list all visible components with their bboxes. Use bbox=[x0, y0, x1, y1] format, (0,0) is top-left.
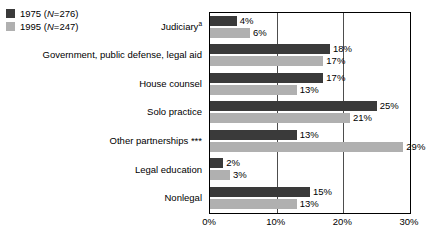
x-tick-label: 20% bbox=[333, 216, 352, 227]
bar-value-label: 15% bbox=[310, 187, 332, 197]
chart-figure: 1975 (N=276) 1995 (N=247) JudiciaryaGove… bbox=[0, 0, 434, 248]
category-label: House counsel bbox=[139, 78, 202, 89]
category-axis: JudiciaryaGovernment, public defense, le… bbox=[0, 12, 206, 212]
bar-1975 bbox=[210, 187, 310, 197]
plot-area: 4%6%18%17%17%13%25%21%13%29%2%3%15%13% bbox=[209, 12, 411, 214]
bar-value-label: 17% bbox=[323, 56, 345, 66]
category-label: Government, public defense, legal aid bbox=[43, 49, 203, 60]
bar-1995 bbox=[210, 199, 297, 209]
bar-value-label: 3% bbox=[230, 170, 247, 180]
bar-value-label: 29% bbox=[403, 142, 425, 152]
category-row: Other partnerships *** bbox=[110, 126, 202, 155]
bar-1975 bbox=[210, 101, 377, 111]
bar-group: 2%3% bbox=[210, 156, 410, 185]
bar-1995 bbox=[210, 113, 350, 123]
bar-value-label: 4% bbox=[237, 16, 254, 26]
category-label: Nonlegal bbox=[165, 192, 203, 203]
bar-1975 bbox=[210, 158, 223, 168]
category-label: Legal education bbox=[135, 164, 202, 175]
bar-value-label: 21% bbox=[350, 113, 372, 123]
x-tick-label: 30% bbox=[399, 216, 418, 227]
category-label: Judiciarya bbox=[161, 21, 202, 32]
bar-value-label: 6% bbox=[250, 28, 267, 38]
bar-group: 4%6% bbox=[210, 13, 410, 42]
category-label: Solo practice bbox=[147, 106, 202, 117]
category-row: Nonlegal bbox=[165, 183, 203, 212]
category-row: Government, public defense, legal aid bbox=[43, 41, 203, 70]
bar-value-label: 13% bbox=[297, 130, 319, 140]
bar-group: 18%17% bbox=[210, 42, 410, 71]
bar-value-label: 18% bbox=[330, 44, 352, 54]
bar-value-label: 17% bbox=[323, 73, 345, 83]
bar-1995 bbox=[210, 56, 323, 66]
category-label: Other partnerships *** bbox=[110, 135, 202, 146]
footnote-marker: a bbox=[198, 20, 202, 27]
bar-1995 bbox=[210, 28, 250, 38]
bar-1995 bbox=[210, 85, 297, 95]
bar-value-label: 13% bbox=[297, 85, 319, 95]
category-row: House counsel bbox=[139, 69, 202, 98]
x-tick-label: 0% bbox=[202, 216, 216, 227]
bar-1975 bbox=[210, 44, 330, 54]
bar-group: 25%21% bbox=[210, 99, 410, 128]
bar-1995 bbox=[210, 170, 230, 180]
category-row: Judiciarya bbox=[161, 12, 202, 41]
bar-group: 15%13% bbox=[210, 184, 410, 213]
category-row: Legal education bbox=[135, 155, 202, 184]
bar-group: 13%29% bbox=[210, 127, 410, 156]
x-tick-label: 10% bbox=[266, 216, 285, 227]
plot-inner: 4%6%18%17%17%13%25%21%13%29%2%3%15%13% bbox=[210, 13, 410, 213]
bar-1975 bbox=[210, 130, 297, 140]
bar-value-label: 2% bbox=[223, 158, 240, 168]
x-axis: 0%10%20%30% bbox=[209, 216, 409, 230]
bar-value-label: 13% bbox=[297, 199, 319, 209]
bar-1975 bbox=[210, 16, 237, 26]
bar-group: 17%13% bbox=[210, 70, 410, 99]
bar-value-label: 25% bbox=[377, 101, 399, 111]
bar-1975 bbox=[210, 73, 323, 83]
significance-stars: *** bbox=[191, 135, 202, 146]
bar-1995 bbox=[210, 142, 403, 152]
category-row: Solo practice bbox=[147, 98, 202, 127]
